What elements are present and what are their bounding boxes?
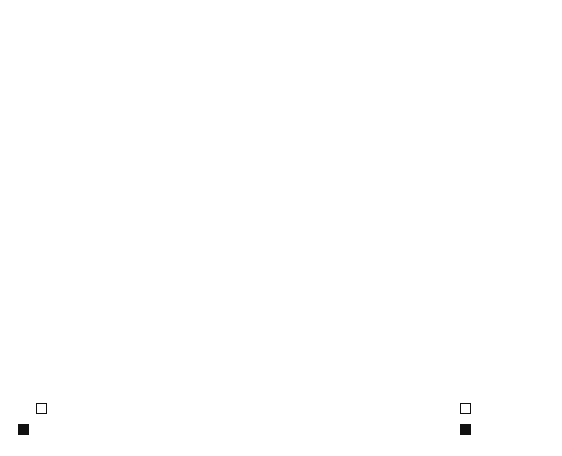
legend-slit-pupils (460, 403, 475, 414)
legend-open-habitats (32, 403, 47, 414)
open-swatch-icon (36, 403, 47, 414)
legend-round-pupils (460, 424, 475, 435)
closed-swatch-icon (18, 424, 29, 435)
legend-closed-habitats (14, 424, 29, 435)
slit-swatch-icon (460, 403, 471, 414)
round-swatch-icon (460, 424, 471, 435)
phylogeny-trees (0, 0, 562, 456)
